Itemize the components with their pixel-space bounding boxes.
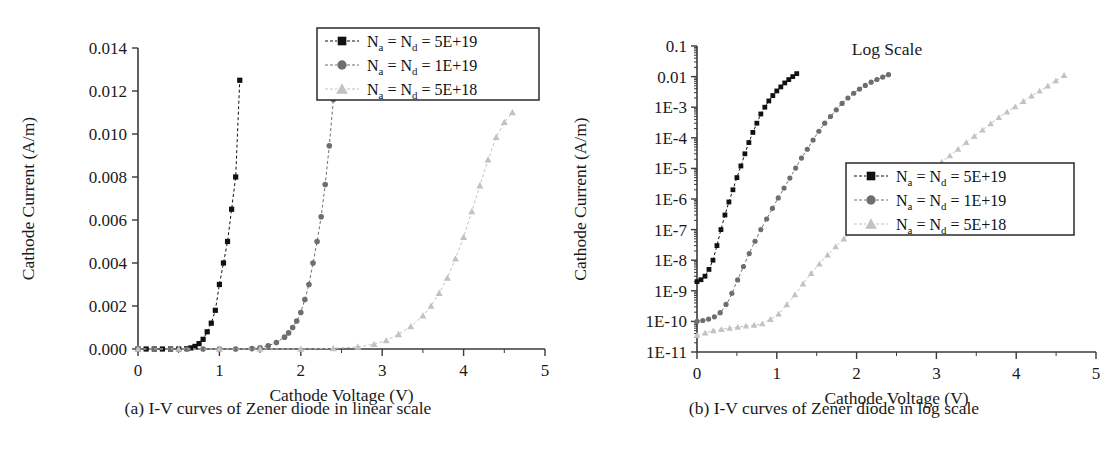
- data-point: [294, 318, 300, 324]
- data-point: [810, 137, 815, 142]
- legend-marker-square: [338, 37, 347, 46]
- data-point: [822, 121, 827, 126]
- data-point: [314, 239, 320, 245]
- data-point: [700, 318, 705, 323]
- series-square: [135, 78, 242, 352]
- data-point: [444, 275, 451, 281]
- series-line: [138, 113, 512, 350]
- data-point: [766, 99, 771, 104]
- data-point: [816, 261, 822, 267]
- data-point: [762, 105, 767, 110]
- data-point: [727, 200, 732, 205]
- data-point: [201, 337, 206, 342]
- data-point: [874, 77, 879, 82]
- data-point: [764, 216, 769, 221]
- data-point: [723, 213, 728, 218]
- data-point: [274, 340, 280, 346]
- data-point: [794, 71, 799, 76]
- data-point: [221, 260, 226, 265]
- data-point: [707, 267, 712, 272]
- data-point: [265, 343, 271, 349]
- data-point: [694, 319, 699, 324]
- x-tick-label: 3: [932, 364, 941, 383]
- x-tick-label: 2: [852, 364, 861, 383]
- data-point: [758, 112, 763, 117]
- y-tick-label: 1E-6: [654, 190, 687, 209]
- x-tick-label: 1: [773, 364, 782, 383]
- y-tick-label: 0.012: [89, 82, 127, 101]
- data-point: [310, 260, 316, 266]
- x-tick-label: 0: [134, 361, 143, 380]
- data-point: [845, 95, 850, 100]
- data-point: [225, 239, 230, 244]
- data-point: [816, 129, 821, 134]
- data-point: [383, 337, 390, 343]
- y-axis-title: Cathode Current (A/m): [570, 117, 590, 280]
- chart-log: 0.10.011E-31E-41E-51E-61E-71E-81E-91E-10…: [556, 0, 1113, 400]
- data-point: [971, 133, 977, 139]
- data-point: [719, 227, 724, 232]
- y-tick-label: 1E-8: [654, 251, 687, 270]
- data-point: [742, 151, 747, 156]
- data-point: [987, 120, 993, 126]
- data-point: [758, 227, 763, 232]
- data-point: [715, 243, 720, 248]
- data-point: [298, 310, 304, 316]
- data-point: [233, 174, 238, 179]
- legend-marker-circle: [337, 60, 346, 69]
- data-point: [735, 175, 740, 180]
- data-point: [436, 290, 443, 296]
- caption-log: (b) I-V curves of Zener diode in log sca…: [556, 398, 1112, 419]
- y-tick-label: 0.000: [89, 340, 127, 359]
- series-square: [695, 71, 800, 284]
- series-line: [138, 80, 240, 349]
- data-point: [828, 114, 833, 119]
- y-tick-label: 0.014: [89, 39, 128, 58]
- series-line: [697, 74, 797, 282]
- data-point: [468, 208, 475, 214]
- series-line: [138, 100, 333, 349]
- data-point: [711, 258, 716, 263]
- y-tick-label: 1E-4: [654, 129, 688, 148]
- y-tick-label: 0.006: [89, 211, 127, 230]
- data-point: [395, 331, 402, 337]
- data-point: [767, 316, 773, 322]
- data-point: [712, 314, 717, 319]
- legend-linear[interactable]: Na = Nd = 5E+19Na = Nd = 1E+19Na = Nd = …: [317, 28, 539, 101]
- figure-container: 0.0000.0020.0040.0060.0080.0100.0120.014…: [0, 0, 1113, 465]
- data-point: [869, 80, 874, 85]
- series-circle: [135, 97, 336, 352]
- data-point: [1045, 83, 1051, 89]
- y-tick-label: 0.004: [89, 254, 128, 273]
- x-tick-label: 0: [693, 364, 702, 383]
- x-tick-label: 1: [215, 361, 224, 380]
- legend-log[interactable]: Na = Nd = 5E+19Na = Nd = 1E+19Na = Nd = …: [846, 163, 1074, 236]
- data-point: [729, 291, 734, 296]
- data-point: [799, 155, 804, 160]
- y-tick-label: 1E-10: [645, 312, 687, 331]
- data-point: [754, 121, 759, 126]
- chart-linear: 0.0000.0020.0040.0060.0080.0100.0120.014…: [0, 0, 556, 400]
- data-point: [747, 251, 752, 256]
- data-point: [781, 185, 786, 190]
- data-point: [322, 182, 328, 188]
- data-point: [286, 330, 292, 336]
- y-tick-label: 1E-11: [646, 343, 687, 362]
- data-point: [741, 264, 746, 269]
- data-point: [792, 291, 798, 297]
- panel-log: 0.10.011E-31E-41E-51E-61E-71E-81E-91E-10…: [556, 0, 1112, 465]
- data-point: [996, 114, 1002, 120]
- data-point: [205, 329, 210, 334]
- x-tick-label: 2: [297, 361, 306, 380]
- data-point: [735, 277, 740, 282]
- panel-linear: 0.0000.0020.0040.0060.0080.0100.0120.014…: [0, 0, 556, 465]
- data-point: [808, 270, 814, 276]
- data-point: [306, 282, 312, 288]
- series-triangle: [134, 109, 515, 352]
- data-point: [979, 127, 985, 133]
- x-tick-label: 3: [378, 361, 387, 380]
- legend-marker-circle: [866, 195, 875, 204]
- caption-linear: (a) I-V curves of Zener diode in linear …: [0, 398, 556, 419]
- data-point: [787, 176, 792, 181]
- data-point: [209, 321, 214, 326]
